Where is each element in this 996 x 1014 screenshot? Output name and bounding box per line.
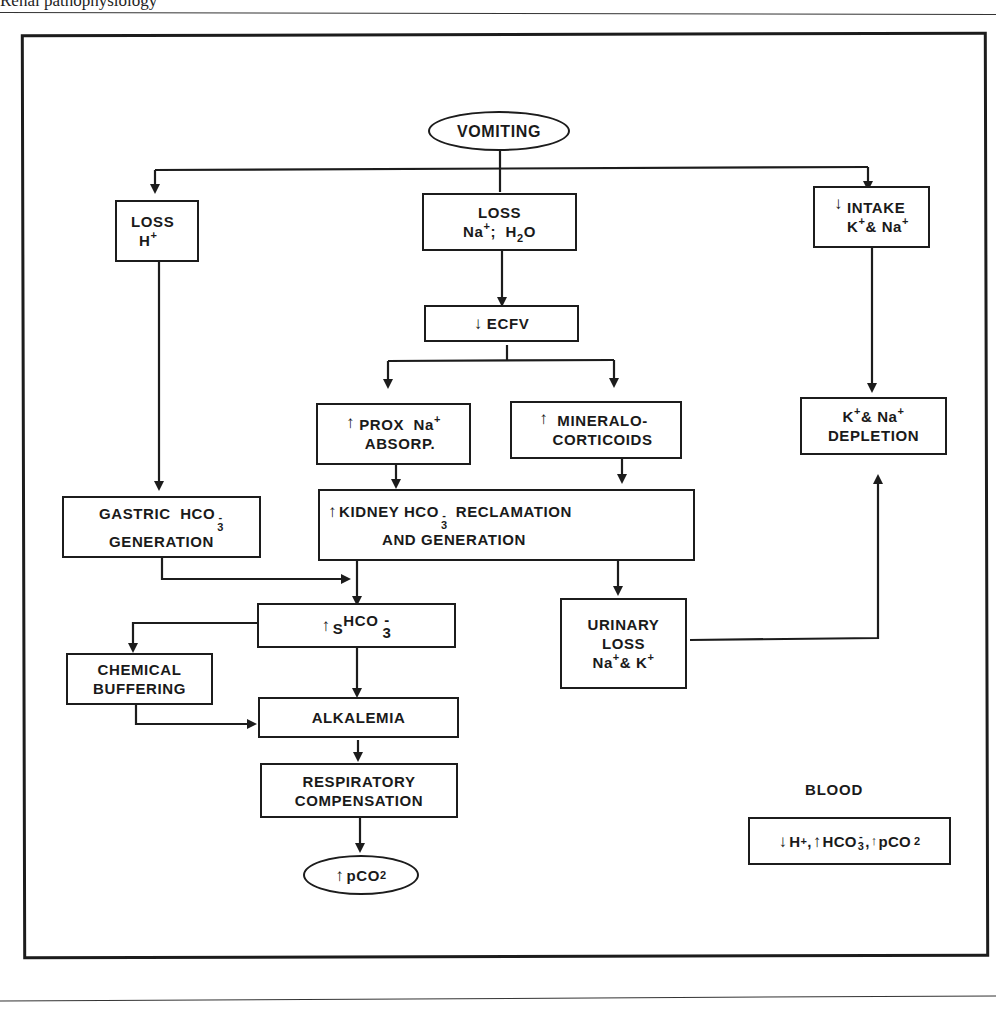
down-arrow-icon: ↓ bbox=[834, 194, 843, 213]
hco3-charge-stack: -3 bbox=[217, 512, 224, 532]
down-arrow-icon: ↓ bbox=[474, 314, 483, 333]
ampersand: & bbox=[620, 654, 631, 671]
depletion-line1: K+& Na+ bbox=[842, 407, 904, 426]
node-increased-pco2: ↑ pCO2 bbox=[303, 855, 419, 895]
intake-text: INTAKE K+& Na+ bbox=[847, 198, 909, 236]
gastric-line2: GENERATION bbox=[109, 532, 214, 551]
comma: , bbox=[865, 832, 869, 851]
na-charge: + bbox=[434, 413, 441, 425]
up-arrow-icon: ↑ bbox=[322, 616, 331, 635]
na-symbol: Na bbox=[882, 218, 902, 235]
mineralo-text: MINERALO- CORTICOIDS bbox=[552, 411, 652, 449]
mineralo-line1: MINERALO- bbox=[557, 411, 647, 430]
node-decreased-intake: ↓ INTAKE K+& Na+ bbox=[813, 186, 930, 248]
kidney-line2: AND GENERATION bbox=[328, 530, 526, 549]
node-k-na-depletion: K+& Na+ DEPLETION bbox=[800, 397, 947, 455]
up-arrow-icon: ↑ bbox=[335, 866, 344, 885]
node-urinary-loss: URINARY LOSS Na+& K+ bbox=[560, 598, 687, 689]
node-respiratory-compensation: RESPIRATORY COMPENSATION bbox=[260, 763, 458, 818]
pco2-symbol: pCO bbox=[878, 832, 911, 851]
subscript: 3 bbox=[217, 522, 224, 532]
h2o-h: H bbox=[506, 223, 517, 240]
node-decreased-ecfv: ↓ ECFV bbox=[424, 305, 579, 342]
loss-na-h2o-line2: Na+; H2O bbox=[463, 222, 536, 241]
charge: - bbox=[441, 510, 448, 520]
pco2-label: pCO bbox=[346, 866, 379, 885]
gastric-line1: GASTRIC HCO-3 bbox=[99, 504, 224, 532]
h2o-sub: 2 bbox=[517, 232, 524, 244]
h2o-o: O bbox=[524, 223, 536, 240]
node-kidney-hco3: ↑KIDNEY HCO-3RECLAMATION AND GENERATION bbox=[318, 489, 695, 561]
k-symbol: K bbox=[636, 654, 647, 671]
respiratory-line2: COMPENSATION bbox=[295, 791, 424, 810]
prox-text: PROX Na+ ABSORP. bbox=[359, 415, 441, 453]
blood-legend-box: ↓ H+, ↑ HCO -3, ↑ pCO2 bbox=[748, 817, 951, 865]
gastric-line1-text: GASTRIC HCO bbox=[99, 505, 215, 522]
intake-line1: INTAKE bbox=[847, 198, 905, 217]
reclamation-text: RECLAMATION bbox=[456, 503, 572, 520]
loss-h-line2: H+ bbox=[131, 231, 157, 250]
h-symbol: H bbox=[789, 832, 800, 851]
up-arrow-icon: ↑ bbox=[328, 502, 337, 521]
alkalemia-label: ALKALEMIA bbox=[312, 708, 406, 727]
kidney-line1: ↑KIDNEY HCO-3RECLAMATION bbox=[328, 502, 572, 530]
hco3-charge-stack: -3 bbox=[441, 510, 448, 530]
k-charge: + bbox=[648, 651, 655, 663]
prox-line2: ABSORP. bbox=[365, 434, 436, 453]
subscript: 3 bbox=[441, 520, 448, 530]
subscript: 3 bbox=[858, 841, 864, 851]
ecfv-label: ECFV bbox=[487, 314, 529, 333]
h-charge: + bbox=[150, 229, 157, 241]
buffering-line2: BUFFERING bbox=[93, 679, 186, 698]
node-loss-na-h2o: LOSS Na+; H2O bbox=[422, 193, 577, 251]
urinary-line2: LOSS bbox=[602, 634, 645, 653]
vomiting-label: VOMITING bbox=[457, 122, 541, 141]
node-serum-hco3: ↑ S HCO - 3 bbox=[257, 603, 456, 648]
hco3-charge-stack: - 3 bbox=[382, 613, 391, 639]
urinary-line3: Na+& K+ bbox=[592, 653, 654, 672]
respiratory-line1: RESPIRATORY bbox=[302, 772, 415, 791]
na-charge: + bbox=[902, 215, 909, 227]
node-alkalemia: ALKALEMIA bbox=[258, 697, 459, 738]
na-symbol: Na bbox=[877, 408, 897, 425]
na-charge: + bbox=[898, 405, 905, 417]
hco3-symbol: HCO bbox=[823, 832, 857, 851]
k-symbol: K bbox=[847, 218, 858, 235]
hco-label: HCO bbox=[343, 611, 378, 630]
kidney-text: KIDNEY HCO bbox=[339, 503, 439, 520]
separator: ; bbox=[490, 223, 496, 240]
serum-s: S bbox=[333, 619, 344, 638]
node-loss-h: LOSS H+ bbox=[115, 200, 199, 262]
node-chemical-buffering: CHEMICAL BUFFERING bbox=[66, 653, 213, 705]
na-symbol: Na bbox=[463, 223, 483, 240]
prox-line1-text: PROX Na bbox=[359, 416, 434, 433]
depletion-line2: DEPLETION bbox=[828, 426, 919, 445]
buffering-line1: CHEMICAL bbox=[98, 660, 182, 679]
node-prox-na-absorp: ↑ PROX Na+ ABSORP. bbox=[316, 403, 471, 465]
k-charge: + bbox=[854, 405, 861, 417]
na-charge: + bbox=[613, 651, 620, 663]
subscript: 3 bbox=[382, 626, 391, 639]
charge: - bbox=[217, 512, 224, 522]
up-arrow-icon: ↑ bbox=[871, 831, 878, 850]
ampersand: & bbox=[861, 408, 872, 425]
node-mineralocorticoids: ↑ MINERALO- CORTICOIDS bbox=[510, 401, 682, 459]
hco3-charge-stack: -3 bbox=[858, 831, 864, 851]
urinary-line1: URINARY bbox=[588, 615, 660, 634]
intake-line2: K+& Na+ bbox=[847, 217, 909, 236]
blood-legend-title: BLOOD bbox=[805, 781, 863, 798]
node-gastric-hco3: GASTRIC HCO-3 GENERATION bbox=[62, 496, 261, 558]
na-symbol: Na bbox=[592, 654, 612, 671]
h-symbol: H bbox=[139, 232, 150, 249]
prox-line1: PROX Na+ bbox=[359, 415, 441, 434]
up-arrow-icon: ↑ bbox=[346, 413, 355, 432]
mineralo-line2: CORTICOIDS bbox=[552, 430, 652, 449]
k-symbol: K bbox=[842, 408, 853, 425]
comma: , bbox=[807, 832, 811, 851]
ampersand: & bbox=[865, 218, 876, 235]
up-arrow-icon: ↑ bbox=[813, 832, 822, 851]
down-arrow-icon: ↓ bbox=[779, 832, 788, 851]
node-vomiting: VOMITING bbox=[428, 111, 570, 151]
up-arrow-icon: ↑ bbox=[539, 409, 548, 428]
